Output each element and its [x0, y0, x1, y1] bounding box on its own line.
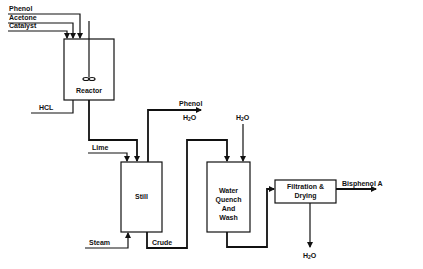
quench-label-line-3: And: [207, 204, 250, 213]
catalyst-feed-line: [8, 31, 67, 38]
agitator-blade-left: [83, 78, 89, 81]
catalyst-feed-label: Catalyst: [9, 22, 36, 30]
quench-label: Water Quench And Wash: [207, 186, 250, 222]
filtration-water-label: H2O: [303, 252, 316, 261]
lime-label: Lime: [92, 144, 108, 152]
still-overhead-phenol-label: Phenol: [179, 100, 202, 108]
phenol-feed-label: Phenol: [9, 5, 32, 13]
process-flow-diagram: [0, 0, 423, 269]
quench-label-line-1: Water: [207, 186, 250, 195]
lime-line: [88, 153, 127, 161]
steam-label: Steam: [89, 239, 110, 247]
acetone-feed-label: Acetone: [9, 14, 37, 22]
filtration-label-line-1: Filtration &: [275, 182, 336, 191]
product-label: Bisphenol A: [342, 180, 383, 188]
agitator-blade-right: [89, 78, 95, 81]
crude-label: Crude: [152, 239, 172, 247]
filtration-label-line-2: Drying: [275, 191, 336, 200]
quench-label-line-4: Wash: [207, 213, 250, 222]
still-label: Still: [121, 192, 162, 201]
quench-label-line-2: Quench: [207, 195, 250, 204]
hcl-label: HCL: [39, 104, 53, 112]
quench-water-label: H2O: [236, 114, 249, 123]
reactor-label: Reactor: [64, 86, 114, 95]
filtration-label: Filtration & Drying: [275, 182, 336, 200]
still-overhead-water-label: H2O: [183, 114, 196, 123]
